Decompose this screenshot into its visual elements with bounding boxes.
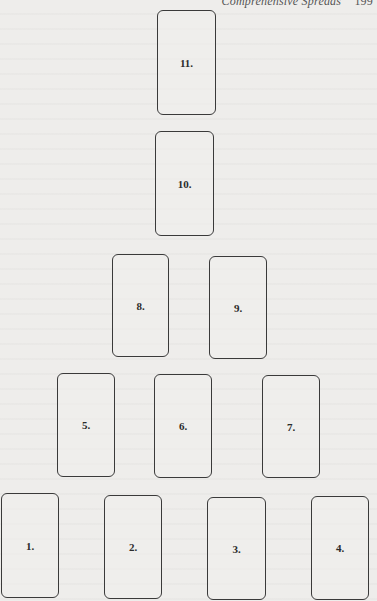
card-position-2: 2.: [104, 495, 162, 599]
running-head: Comprehensive Spreads 199: [222, 0, 373, 9]
card-label: 3.: [232, 543, 240, 555]
card-label: 6.: [179, 420, 187, 432]
card-label: 2.: [129, 541, 137, 553]
card-position-7: 7.: [262, 375, 320, 478]
card-label: 8.: [136, 300, 144, 312]
card-label: 10.: [178, 178, 192, 190]
page-number: 199: [354, 0, 373, 8]
card-label: 11.: [180, 57, 193, 69]
card-label: 4.: [336, 542, 344, 554]
running-head-title: Comprehensive Spreads: [222, 0, 342, 8]
card-label: 5.: [82, 419, 90, 431]
card-position-11: 11.: [157, 10, 216, 115]
card-position-5: 5.: [57, 373, 115, 477]
card-position-3: 3.: [207, 497, 266, 600]
card-position-9: 9.: [209, 256, 267, 359]
card-position-6: 6.: [154, 374, 212, 478]
card-label: 1.: [26, 540, 34, 552]
card-position-10: 10.: [155, 131, 214, 236]
card-label: 9.: [234, 302, 242, 314]
card-position-4: 4.: [311, 496, 369, 600]
card-position-8: 8.: [112, 254, 169, 357]
card-position-1: 1.: [1, 493, 59, 598]
card-label: 7.: [287, 421, 295, 433]
